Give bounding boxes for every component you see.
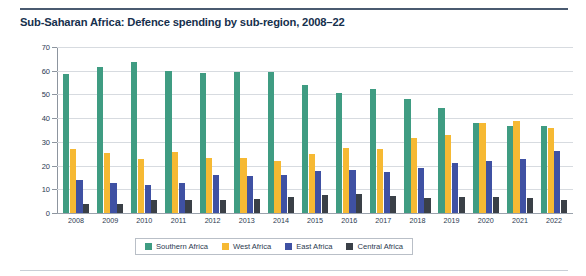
x-axis-tick-labels: 2008200920102011201220132014201520162017…	[57, 216, 573, 225]
bar[interactable]	[370, 89, 376, 213]
bar[interactable]	[247, 176, 253, 213]
bar[interactable]	[83, 204, 89, 213]
bar[interactable]	[104, 153, 110, 213]
bar[interactable]	[473, 123, 479, 213]
x-tick-label: 2014	[264, 216, 298, 225]
bar[interactable]	[76, 180, 82, 213]
bar[interactable]	[343, 148, 349, 213]
bar[interactable]	[411, 138, 417, 213]
bar[interactable]	[179, 183, 185, 213]
bar[interactable]	[438, 108, 444, 213]
bar[interactable]	[240, 158, 246, 213]
bar[interactable]	[424, 198, 430, 213]
bar[interactable]	[377, 149, 383, 213]
legend-swatch-icon	[222, 243, 229, 250]
y-axis-tick-labels: 010203040506070	[28, 47, 50, 213]
bar[interactable]	[322, 195, 328, 213]
legend-item[interactable]: West Africa	[222, 242, 271, 251]
bar[interactable]	[507, 126, 513, 213]
bar[interactable]	[452, 163, 458, 213]
bar[interactable]	[138, 159, 144, 213]
bar[interactable]	[200, 73, 206, 213]
legend-swatch-icon	[285, 243, 292, 250]
bar[interactable]	[349, 170, 355, 213]
y-tick-label: 20	[42, 161, 50, 170]
bar[interactable]	[459, 197, 465, 213]
y-tick-mark	[52, 118, 57, 119]
bar[interactable]	[206, 158, 212, 213]
bar[interactable]	[268, 72, 274, 213]
bar-group	[230, 47, 264, 213]
chart-figure: Sub-Saharan Africa: Defence spending by …	[0, 0, 586, 276]
bar[interactable]	[185, 200, 191, 213]
bar[interactable]	[110, 183, 116, 213]
bar[interactable]	[97, 67, 103, 213]
bar[interactable]	[281, 175, 287, 213]
x-tick-label: 2010	[127, 216, 161, 225]
bar[interactable]	[541, 126, 547, 213]
y-tick-label: 30	[42, 137, 50, 146]
bar[interactable]	[486, 161, 492, 213]
y-tick-label: 0	[46, 209, 50, 218]
x-tick-label: 2015	[298, 216, 332, 225]
x-tick-label: 2009	[93, 216, 127, 225]
bar[interactable]	[63, 74, 69, 213]
x-tick-label: 2008	[59, 216, 93, 225]
legend-item[interactable]: Central Africa	[346, 242, 403, 251]
bar-group	[161, 47, 195, 213]
bar[interactable]	[520, 159, 526, 213]
bar[interactable]	[418, 168, 424, 213]
bar-group	[127, 47, 161, 213]
bar-group	[469, 47, 503, 213]
bar[interactable]	[548, 128, 554, 213]
plot-area	[57, 47, 573, 213]
bar[interactable]	[493, 197, 499, 213]
bar[interactable]	[151, 200, 157, 213]
bar[interactable]	[554, 151, 560, 213]
bar[interactable]	[220, 200, 226, 213]
bar[interactable]	[302, 85, 308, 213]
bar[interactable]	[145, 185, 151, 213]
bar[interactable]	[213, 175, 219, 213]
bar[interactable]	[274, 161, 280, 213]
bar-group	[332, 47, 366, 213]
bar[interactable]	[527, 198, 533, 213]
bar[interactable]	[390, 196, 396, 213]
bar[interactable]	[445, 135, 451, 213]
bar[interactable]	[172, 152, 178, 213]
bar[interactable]	[384, 172, 390, 213]
bar[interactable]	[288, 197, 294, 213]
bar[interactable]	[165, 71, 171, 213]
y-tick-mark	[52, 71, 57, 72]
bar[interactable]	[131, 62, 137, 213]
legend-swatch-icon	[145, 243, 152, 250]
bar[interactable]	[309, 154, 315, 213]
bar[interactable]	[70, 149, 76, 213]
bar[interactable]	[479, 123, 485, 213]
legend-item[interactable]: Southern Africa	[145, 242, 208, 251]
bar[interactable]	[404, 99, 410, 213]
bar[interactable]	[254, 199, 260, 213]
legend-item[interactable]: East Africa	[285, 242, 332, 251]
figure-bottom-rule	[20, 270, 568, 271]
y-tick-mark	[52, 47, 57, 48]
y-tick-label: 50	[42, 90, 50, 99]
x-tick-label: 2012	[196, 216, 230, 225]
x-tick-label: 2020	[469, 216, 503, 225]
bar[interactable]	[234, 72, 240, 213]
bar-group	[435, 47, 469, 213]
bar[interactable]	[561, 200, 567, 213]
x-tick-label: 2013	[230, 216, 264, 225]
bar[interactable]	[356, 194, 362, 213]
bar[interactable]	[117, 204, 123, 213]
bar-group	[264, 47, 298, 213]
y-tick-mark	[52, 94, 57, 95]
legend-label: West Africa	[233, 242, 271, 251]
bar[interactable]	[336, 93, 342, 213]
bar-group	[400, 47, 434, 213]
y-tick-label: 10	[42, 185, 50, 194]
bar[interactable]	[513, 121, 519, 213]
y-tick-mark	[52, 213, 57, 214]
title-top-rule	[20, 8, 568, 10]
bar[interactable]	[315, 171, 321, 213]
